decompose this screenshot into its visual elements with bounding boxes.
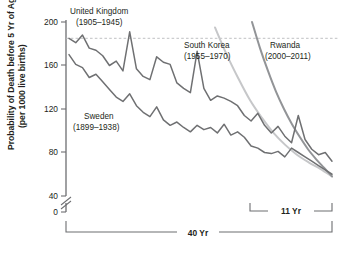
y-axis-title: Probability of Death before 5 Yr of Age … [6, 0, 27, 150]
series-annotation-sweden: Sweden (1899–1938) [73, 112, 120, 132]
series-annotation-rwanda: Rwanda (2000–2011) [265, 41, 311, 61]
label-uk-name: United Kingdom [70, 7, 128, 16]
label-korea-name: South Korea [184, 41, 230, 50]
label-uk-period: (1905–1945) [76, 18, 123, 27]
label-korea-period: (1955–1970) [184, 52, 231, 61]
label-sweden-name: Sweden [84, 112, 114, 121]
mortality-line-chart: Probability of Death before 5 Yr of Age … [0, 0, 345, 260]
series-annotation-uk: United Kingdom (1905–1945) [70, 7, 128, 27]
y-tick-label-0: 0 [53, 207, 58, 217]
bracket-label-11-yr: 11 Yr [281, 206, 302, 216]
label-rwanda-period: (2000–2011) [265, 52, 311, 61]
label-sweden-period: (1899–1938) [73, 123, 120, 132]
y-axis-title-line1: Probability of Death before 5 Yr of Age [6, 0, 16, 150]
bracket-40-yr: 40 Yr [66, 221, 332, 238]
y-tick-label-80: 80 [49, 147, 59, 157]
bracket-11-yr: 11 Yr [250, 203, 332, 216]
y-ticks: 200 160 120 80 40 0 [44, 17, 66, 217]
bracket-label-40-yr: 40 Yr [188, 228, 209, 238]
y-tick-label-200: 200 [44, 17, 58, 27]
y-axis-title-line2: (per 1000 live births) [17, 44, 27, 128]
y-tick-label-40: 40 [49, 191, 59, 201]
y-tick-label-160: 160 [44, 60, 58, 70]
series-annotation-south-korea: South Korea (1955–1970) [184, 41, 231, 61]
label-rwanda-name: Rwanda [270, 41, 300, 50]
y-tick-label-120: 120 [44, 104, 58, 114]
chart-figure: Probability of Death before 5 Yr of Age … [0, 0, 345, 260]
